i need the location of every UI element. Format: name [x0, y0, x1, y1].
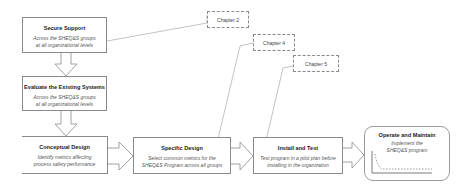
step-description: Across the SHEQ&S groups at all organiza…	[23, 35, 106, 49]
step-title: Install and Test	[254, 145, 342, 151]
callout-chapter-4: Chapter 4	[253, 34, 295, 51]
step-evaluate-existing-systems: Evaluate the Existing Systems Across the…	[22, 76, 107, 111]
step-operate-and-maintain: Operate and Maintain Implement the SHEQ&…	[364, 126, 450, 181]
down-arrow-2	[55, 111, 77, 136]
step-description: Implement the SHEQ&S program	[365, 140, 449, 154]
right-arrow-3	[343, 142, 364, 168]
right-arrow-1	[108, 142, 133, 170]
step-description: Across the SHEQ&S groups at all organiza…	[23, 94, 106, 108]
step-title: Secure Support	[23, 25, 106, 31]
right-arrow-2	[231, 142, 253, 170]
callout-chapter-2: Chapter 2	[207, 11, 249, 28]
step-title: Operate and Maintain	[365, 132, 449, 138]
down-arrow-1	[55, 53, 77, 76]
step-description: Test program in a pilot plan before inst…	[254, 155, 342, 169]
leader-line-chapter-2	[107, 15, 207, 41]
step-install-and-test: Install and Test Test program in a pilot…	[253, 137, 343, 174]
step-title: Specific Design	[134, 145, 230, 151]
step-description: Identify metrics affecting process safet…	[22, 154, 107, 168]
step-title: Evaluate the Existing Systems	[23, 84, 106, 90]
step-specific-design: Specific Design Select common metrics fo…	[133, 137, 231, 174]
step-secure-support: Secure Support Across the SHEQ&S groups …	[22, 17, 107, 53]
callout-chapter-5: Chapter 5	[293, 55, 339, 72]
step-description: Select common metrics for the SHEQ&S Pro…	[134, 155, 230, 169]
step-conceptual-design: Conceptual Design Identify metrics affec…	[22, 136, 108, 174]
step-title: Conceptual Design	[22, 144, 107, 150]
